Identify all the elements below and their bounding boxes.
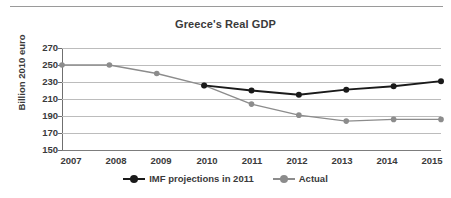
data-point — [391, 83, 397, 89]
legend-item-actual[interactable]: Actual — [273, 173, 328, 184]
data-point — [59, 62, 65, 68]
data-point — [107, 62, 113, 68]
legend-marker-icon-actual — [273, 174, 295, 184]
legend-label-imf-projections: IMF projections in 2011 — [149, 173, 254, 184]
data-point — [249, 101, 255, 107]
data-point — [296, 112, 302, 118]
markers-series-imf-projections — [201, 78, 444, 98]
data-point — [438, 78, 444, 84]
legend-marker-icon-projection — [123, 174, 145, 184]
data-point — [438, 117, 444, 123]
series-layer — [0, 0, 451, 198]
data-point — [154, 71, 160, 77]
line-series-imf-projections — [204, 81, 441, 95]
chart-figure: Greece's Real GDP Billion 2010 euro 270 … — [0, 0, 451, 198]
legend-label-actual: Actual — [299, 173, 328, 184]
data-point — [296, 92, 302, 98]
data-point — [343, 87, 349, 93]
chart-legend: IMF projections in 2011 Actual — [0, 173, 451, 184]
data-point — [249, 88, 255, 94]
legend-item-imf-projections[interactable]: IMF projections in 2011 — [123, 173, 254, 184]
data-point — [201, 82, 207, 88]
data-point — [343, 118, 349, 124]
data-point — [391, 117, 397, 123]
